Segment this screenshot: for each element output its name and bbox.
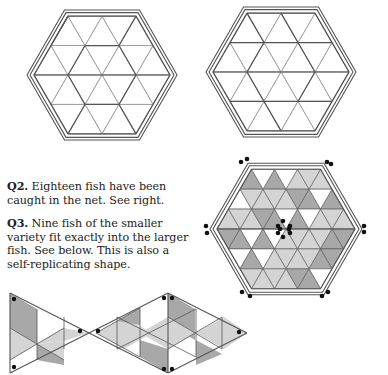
question-2-label: Q2. [7, 179, 28, 193]
question-2: Q2. Eighteen fish have been caught in th… [7, 180, 192, 207]
hex-net-eighteen-fish [204, 157, 367, 299]
question-3-label: Q3. [7, 216, 28, 230]
empty-hex-net-left [27, 10, 177, 140]
question-3-text: Nine fish of the smaller variety fit exa… [7, 217, 188, 271]
question-2-text: Eighteen fish have been caught in the ne… [7, 180, 166, 207]
empty-hex-net-right [206, 7, 356, 137]
large-fish-nine-small [10, 293, 247, 373]
question-3: Q3. Nine fish of the smaller variety fit… [7, 217, 192, 271]
